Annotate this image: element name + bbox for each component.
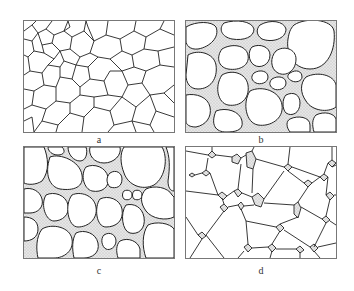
panel-a	[23, 20, 175, 133]
panel-c-label: c	[23, 265, 175, 276]
panel-d	[185, 146, 337, 259]
panel-b-label: b	[185, 134, 337, 145]
panel-a-label: a	[23, 134, 175, 145]
partial-wetting-diagram-c	[24, 147, 174, 258]
liquid-phase-diagram-b	[186, 21, 336, 132]
grain-network-diagram-a	[24, 21, 174, 132]
panel-d-label: d	[185, 265, 337, 276]
panel-b	[185, 20, 337, 133]
panel-c	[23, 146, 175, 259]
triple-junction-diagram-d	[186, 147, 336, 258]
